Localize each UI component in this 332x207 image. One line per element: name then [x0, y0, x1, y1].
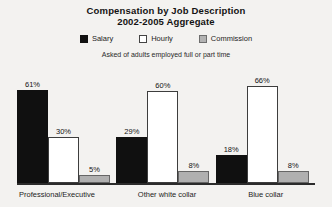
bar-value-label: 29% [124, 127, 139, 136]
bar-slot-commission: 8% [178, 76, 209, 183]
legend-swatch-hourly-icon [139, 35, 147, 43]
chart-title: Compensation by Job Description 2002-200… [0, 0, 332, 27]
bar-slot-hourly: 60% [147, 76, 178, 183]
bar-slot-salary: 18% [216, 76, 247, 183]
bar-commission [79, 175, 110, 183]
bar-slot-commission: 5% [79, 76, 110, 183]
bar-commission [178, 171, 209, 183]
bar-slot-salary: 61% [17, 76, 48, 183]
chart-container: Compensation by Job Description 2002-200… [0, 0, 332, 207]
category-axis-labels: Professional/Executive Other white colla… [17, 190, 315, 199]
legend-swatch-commission-icon [199, 35, 207, 43]
category-label-professional-executive: Professional/Executive [17, 190, 118, 199]
x-axis-line [17, 183, 315, 185]
bar-value-label: 60% [155, 81, 170, 90]
bar-value-label: 5% [89, 165, 100, 174]
category-label-other-white-collar: Other white collar [118, 190, 217, 199]
bar-hourly [48, 137, 79, 183]
bar-salary [216, 155, 247, 183]
title-line-2: 2002-2005 Aggregate [0, 16, 332, 27]
bar-slot-hourly: 66% [247, 76, 278, 183]
legend-item-hourly: Hourly [139, 34, 173, 43]
bar-value-label: 61% [25, 80, 40, 89]
bar-slot-hourly: 30% [48, 76, 79, 183]
bar-value-label: 66% [255, 76, 270, 85]
bar-group-other-white-collar: 29% 60% 8% [116, 76, 215, 183]
plot-area: 61% 30% 5% 29% 60% [17, 76, 315, 185]
legend-item-salary: Salary [80, 34, 113, 43]
legend-label-hourly: Hourly [151, 34, 173, 43]
chart-subtitle: Asked of adults employed full or part ti… [0, 51, 332, 58]
bar-hourly [147, 91, 178, 183]
bar-value-label: 30% [56, 127, 71, 136]
bar-slot-salary: 29% [116, 76, 147, 183]
chart-legend: Salary Hourly Commission [0, 34, 332, 43]
bar-value-label: 8% [188, 161, 199, 170]
bar-groups: 61% 30% 5% 29% 60% [17, 76, 315, 183]
bar-commission [278, 171, 309, 183]
bar-value-label: 8% [288, 161, 299, 170]
bar-value-label: 18% [224, 145, 239, 154]
bar-slot-commission: 8% [278, 76, 309, 183]
legend-label-commission: Commission [211, 34, 252, 43]
category-label-blue-collar: Blue collar [216, 190, 315, 199]
bar-group-blue-collar: 18% 66% 8% [216, 76, 315, 183]
legend-swatch-salary-icon [80, 35, 88, 43]
title-line-1: Compensation by Job Description [0, 5, 332, 16]
legend-item-commission: Commission [199, 34, 252, 43]
bar-salary [116, 137, 147, 183]
bar-hourly [247, 86, 278, 183]
bar-salary [17, 90, 48, 183]
legend-label-salary: Salary [92, 34, 113, 43]
bar-group-professional-executive: 61% 30% 5% [17, 76, 116, 183]
